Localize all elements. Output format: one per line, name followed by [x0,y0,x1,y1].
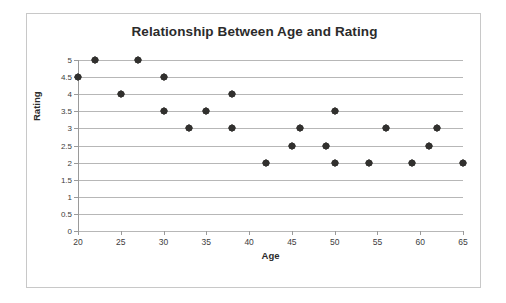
y-axis-line [78,60,79,231]
data-point [296,124,304,132]
y-tick-label: 5 [68,56,72,65]
gridline [78,77,463,78]
y-tick-label: 0.5 [61,209,72,218]
data-point [185,124,193,132]
y-tick-mark [74,146,78,147]
y-tick-label: 2.5 [61,141,72,150]
data-point [228,90,236,98]
x-tick-label: 55 [373,237,382,247]
y-tick-label: 3 [68,124,72,133]
y-tick-label: 3.5 [61,107,72,116]
data-point [330,158,338,166]
y-tick-mark [74,128,78,129]
plot-area: 00.511.522.533.544.55 202530354045505560… [78,60,463,231]
x-tick-mark [78,231,79,235]
data-point [365,158,373,166]
data-point [159,73,167,81]
data-point [262,158,270,166]
gridline [78,214,463,215]
x-tick-mark [335,231,336,235]
y-axis-title: Rating [31,91,42,121]
data-point [74,73,82,81]
x-tick-mark [463,231,464,235]
x-tick-mark [292,231,293,235]
y-tick-mark [74,94,78,95]
x-tick-label: 50 [330,237,339,247]
x-tick-mark [164,231,165,235]
y-tick-mark [74,60,78,61]
data-point [433,124,441,132]
data-point [228,124,236,132]
x-tick-label: 20 [73,237,82,247]
gridline [78,180,463,181]
y-tick-label: 4 [68,90,72,99]
x-tick-mark [420,231,421,235]
data-point [159,107,167,115]
data-point [322,141,330,149]
gridline [78,231,463,232]
data-point [407,158,415,166]
chart-frame: Relationship Between Age and Rating 00.5… [26,13,481,288]
gridline [78,128,463,129]
y-tick-mark [74,180,78,181]
y-tick-mark [74,163,78,164]
chart-title: Relationship Between Age and Rating [27,24,482,39]
gridline [78,111,463,112]
data-point [425,141,433,149]
data-point [117,90,125,98]
x-tick-mark [121,231,122,235]
data-point [330,107,338,115]
data-point [288,141,296,149]
data-point [459,158,467,166]
x-tick-label: 65 [458,237,467,247]
data-point [202,107,210,115]
data-point [134,56,142,64]
gridline [78,146,463,147]
y-tick-label: 0 [68,227,72,236]
y-tick-mark [74,111,78,112]
y-tick-mark [74,214,78,215]
gridline [78,197,463,198]
gridline [78,94,463,95]
x-tick-label: 60 [415,237,424,247]
x-axis-title: Age [78,250,463,261]
x-tick-mark [206,231,207,235]
data-point [91,56,99,64]
x-tick-label: 45 [287,237,296,247]
y-tick-label: 2 [68,158,72,167]
y-tick-label: 1.5 [61,175,72,184]
y-tick-label: 4.5 [61,73,72,82]
x-tick-label: 30 [159,237,168,247]
x-tick-mark [249,231,250,235]
y-tick-label: 1 [68,192,72,201]
gridline [78,163,463,164]
y-tick-mark [74,197,78,198]
x-tick-label: 25 [116,237,125,247]
x-tick-label: 40 [244,237,253,247]
data-point [382,124,390,132]
x-tick-mark [377,231,378,235]
x-tick-label: 35 [202,237,211,247]
